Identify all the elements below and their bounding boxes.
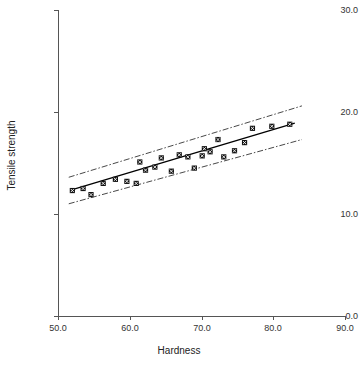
scatter-point — [269, 124, 274, 129]
scatter-point — [101, 181, 106, 186]
scatter-marker-layer — [70, 122, 293, 198]
scatter-point — [124, 179, 129, 184]
scatter-point — [221, 154, 226, 159]
scatter-point — [208, 149, 213, 154]
regression-line — [72, 123, 294, 189]
scatter-point — [200, 153, 205, 158]
scatter-point — [250, 126, 255, 131]
scatter-point — [152, 164, 157, 169]
confidence-band-line — [69, 106, 302, 177]
scatter-point — [192, 166, 197, 171]
scatter-point — [143, 168, 148, 173]
regression-line-layer — [72, 123, 294, 189]
scatter-point — [287, 122, 292, 127]
scatter-point — [159, 155, 164, 160]
scatter-point — [81, 186, 86, 191]
scatter-point — [215, 137, 220, 142]
scatter-point — [177, 152, 182, 157]
scatter-point — [137, 159, 142, 164]
scatter-point — [202, 146, 207, 151]
scatter-point — [185, 154, 190, 159]
scatter-point — [70, 188, 75, 193]
scatter-point — [169, 169, 174, 174]
scatter-point — [232, 148, 237, 153]
scatter-point — [113, 177, 118, 182]
scatter-point — [242, 140, 247, 145]
scatter-point — [88, 192, 93, 197]
scatter-point — [134, 181, 139, 186]
confidence-band-line — [69, 140, 302, 204]
